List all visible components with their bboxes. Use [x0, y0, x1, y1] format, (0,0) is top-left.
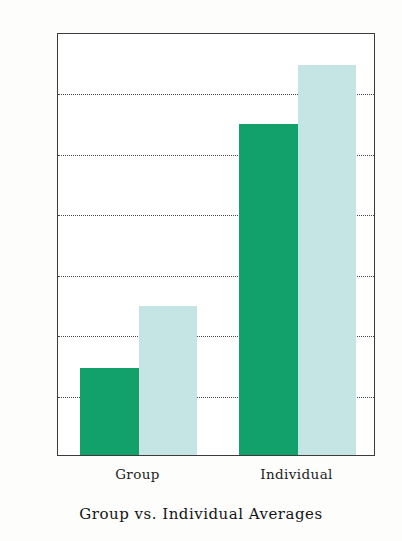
x-axis-tick-label: Group	[115, 466, 160, 482]
chart-figure: 05101520253035 GroupIndividual Group vs.…	[0, 0, 402, 541]
chart-title: Group vs. Individual Averages	[0, 505, 402, 523]
bar[interactable]	[80, 368, 139, 455]
bar[interactable]	[298, 65, 357, 455]
bar[interactable]	[239, 124, 298, 455]
x-axis-tick-label: Individual	[260, 466, 333, 482]
plot-area	[57, 33, 375, 456]
bar[interactable]	[139, 306, 198, 455]
